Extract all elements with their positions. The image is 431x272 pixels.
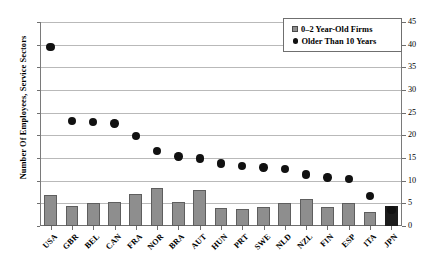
x-axis-label-BRA: BRA [161,232,187,258]
x-axis-label-HUN: HUN [203,232,229,258]
x-axis-label-NLD: NLD [267,232,293,258]
legend-bar-swatch-icon [292,26,298,32]
x-axis-tickmark-CAN [115,226,116,230]
y-axis-tickmark-right [402,181,406,182]
y-axis-tick-label-right-45: 45 [408,18,430,26]
x-axis-label-FIN: FIN [310,232,336,258]
data-point-BEL [89,118,97,126]
y-axis-title: Number Of Employees, Service Sectors [19,8,28,208]
data-point-NZL [302,170,310,178]
y-axis-tickmark-left [37,90,41,91]
x-axis-tickmark-NOR [157,226,158,230]
y-axis-tick-label-right-0: 0 [408,222,430,230]
data-point-HUN [217,159,225,167]
x-axis-label-AUT: AUT [182,232,208,258]
x-axis-tickmark-NLD [285,226,286,230]
x-axis-tickmark-SWE [264,226,265,230]
x-axis-tickmark-FRA [136,226,137,230]
x-axis-tickmark-ITA [370,226,371,230]
x-axis-tickmark-ESP [349,226,350,230]
data-point-SWE [259,163,267,171]
y-axis-tickmark-right [402,158,406,159]
x-axis-label-NOR: NOR [139,232,165,258]
y-axis-tickmark-left [37,226,41,227]
scatter-series-layer [40,22,402,226]
x-axis-label-ESP: ESP [331,232,357,258]
data-point-JPN [387,206,395,214]
legend-item-bar-series: 0–2 Year-Old Firms [284,23,401,35]
x-axis-label-USA: USA [33,232,59,258]
y-axis-tickmark-right [402,135,406,136]
data-point-FIN [323,173,331,181]
data-point-NOR [153,147,161,155]
y-axis-tick-label-right-25: 25 [408,109,430,117]
x-axis-label-NZL: NZL [288,232,314,258]
y-axis-tickmark-right [402,203,406,204]
x-axis-label-GBR: GBR [54,232,80,258]
y-axis-tick-label-right-5: 5 [408,199,430,207]
y-axis-tick-label-right-10: 10 [408,177,430,185]
data-point-ESP [345,175,353,183]
data-point-NLD [281,165,289,173]
data-point-PRT [238,162,246,170]
x-axis-tickmark-AUT [200,226,201,230]
x-axis-label-JPN: JPN [374,232,400,258]
y-axis-tickmark-left [37,158,41,159]
data-point-BRA [174,152,182,160]
y-axis-tickmark-right [402,226,406,227]
x-axis-label-CAN: CAN [97,232,123,258]
x-axis-tickmark-BEL [93,226,94,230]
x-axis-tickmark-JPN [391,226,392,230]
y-axis-tickmark-left [37,113,41,114]
x-axis-label-SWE: SWE [246,232,272,258]
data-point-ITA [366,192,374,200]
y-axis-tickmark-right [402,22,406,23]
y-axis-tick-label-right-30: 30 [408,86,430,94]
data-point-USA [46,43,54,51]
x-axis-label-ITA: ITA [352,232,378,258]
x-axis-tickmark-GBR [72,226,73,230]
legend-label-dot-series: Older Than 10 Years [301,37,376,46]
y-axis-tickmark-right [402,90,406,91]
y-axis-tickmark-right [402,113,406,114]
y-axis-tickmark-left [37,135,41,136]
x-axis-label-PRT: PRT [224,232,250,258]
x-axis-tickmark-USA [51,226,52,230]
x-axis-tickmark-HUN [221,226,222,230]
y-axis-tickmark-right [402,45,406,46]
legend-item-dot-series: Older Than 10 Years [284,35,401,47]
y-axis-tickmark-left [37,181,41,182]
data-point-GBR [68,117,76,125]
x-axis-tickmark-FIN [327,226,328,230]
y-axis-tick-label-right-15: 15 [408,154,430,162]
chart-legend: 0–2 Year-Old Firms Older Than 10 Years [283,18,402,52]
y-axis-tickmark-left [37,203,41,204]
data-point-FRA [132,132,140,140]
legend-label-bar-series: 0–2 Year-Old Firms [301,25,372,34]
y-axis-tick-label-right-35: 35 [408,63,430,71]
x-axis-tickmark-NZL [306,226,307,230]
y-axis-tick-label-right-20: 20 [408,131,430,139]
x-axis-tickmark-BRA [178,226,179,230]
x-axis-label-FRA: FRA [118,232,144,258]
chart-container: Number Of Employees, Service Sectors 005… [0,0,431,272]
y-axis-tickmark-left [37,22,41,23]
y-axis-tick-label-right-40: 40 [408,41,430,49]
x-axis-label-BEL: BEL [75,232,101,258]
y-axis-tickmark-right [402,67,406,68]
x-axis-tickmark-PRT [242,226,243,230]
data-point-AUT [196,154,204,162]
data-point-CAN [110,119,118,127]
y-axis-tickmark-left [37,45,41,46]
y-axis-tickmark-left [37,67,41,68]
legend-dot-swatch-icon [293,38,298,43]
